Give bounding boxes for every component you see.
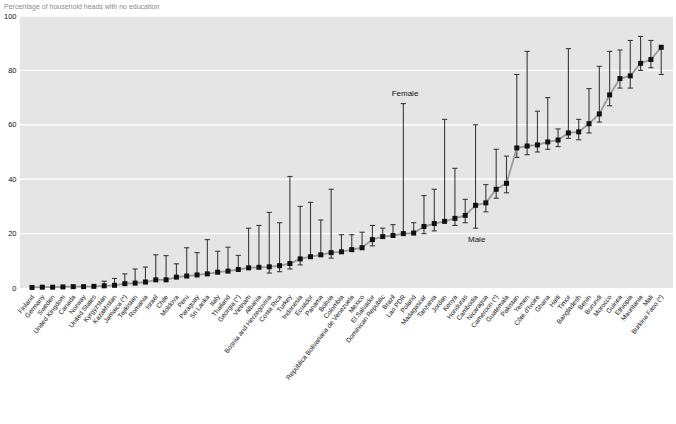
male-marker: [556, 138, 561, 143]
male-marker: [607, 92, 612, 97]
male-marker: [566, 130, 571, 135]
male-marker: [349, 247, 354, 252]
male-marker: [30, 285, 35, 290]
male-marker: [236, 267, 241, 272]
y-axis-tick-label: 100: [4, 12, 17, 21]
male-marker: [370, 237, 375, 242]
male-marker: [659, 45, 664, 50]
y-axis-tick-label: 20: [8, 229, 16, 238]
male-marker: [256, 265, 261, 270]
male-marker: [81, 284, 86, 289]
annotation-male: Male: [468, 235, 486, 244]
male-marker: [287, 261, 292, 266]
male-marker: [318, 252, 323, 257]
male-marker: [360, 245, 365, 250]
male-marker: [483, 200, 488, 205]
male-marker: [246, 265, 251, 270]
male-marker: [298, 256, 303, 261]
plot-area: [20, 16, 673, 288]
male-marker: [545, 139, 550, 144]
male-marker: [174, 275, 179, 280]
chart-title: Percentage of household heads with no ed…: [4, 3, 159, 11]
male-marker: [401, 231, 406, 236]
male-marker: [184, 274, 189, 279]
y-axis-tick-labels: 020406080100: [4, 12, 17, 293]
male-marker: [432, 221, 437, 226]
male-marker: [411, 231, 416, 236]
male-marker: [308, 254, 313, 259]
male-marker: [525, 144, 530, 149]
male-marker: [576, 129, 581, 134]
male-marker: [628, 73, 633, 78]
male-marker: [452, 216, 457, 221]
male-marker: [112, 283, 117, 288]
male-marker: [597, 111, 602, 116]
male-marker: [133, 281, 138, 286]
y-axis-tick-label: 80: [8, 66, 16, 75]
male-marker: [164, 277, 169, 282]
male-marker: [91, 284, 96, 289]
male-marker: [421, 224, 426, 229]
male-marker: [71, 284, 76, 289]
male-marker: [391, 233, 396, 238]
male-marker: [473, 203, 478, 208]
male-marker: [50, 285, 55, 290]
male-marker: [442, 219, 447, 224]
male-marker: [638, 61, 643, 66]
male-marker: [143, 280, 148, 285]
male-marker: [514, 145, 519, 150]
male-marker: [277, 263, 282, 268]
y-axis-tick-label: 40: [8, 175, 16, 184]
male-marker: [380, 234, 385, 239]
male-marker: [617, 76, 622, 81]
male-marker: [225, 269, 230, 274]
male-marker: [215, 270, 220, 275]
male-marker: [329, 250, 334, 255]
male-marker: [587, 121, 592, 126]
male-marker: [153, 277, 158, 282]
male-marker: [648, 57, 653, 62]
male-marker: [494, 187, 499, 192]
male-marker: [40, 285, 45, 290]
male-marker: [102, 283, 107, 288]
male-marker: [205, 271, 210, 276]
annotation-female: Female: [392, 89, 419, 98]
male-marker: [463, 213, 468, 218]
education-by-sex-chart: Percentage of household heads with no ed…: [0, 0, 676, 424]
male-marker: [535, 142, 540, 147]
male-marker: [339, 249, 344, 254]
y-axis-tick-label: 0: [12, 284, 16, 293]
male-marker: [60, 284, 65, 289]
male-marker: [267, 264, 272, 269]
male-marker: [504, 181, 509, 186]
y-axis-tick-label: 60: [8, 120, 16, 129]
male-marker: [195, 272, 200, 277]
chart-page: Percentage of household heads with no ed…: [0, 0, 676, 424]
male-marker: [122, 281, 127, 286]
x-axis-country-labels: FinlandGermanySwedenUnited KingdomCanada…: [16, 293, 665, 382]
